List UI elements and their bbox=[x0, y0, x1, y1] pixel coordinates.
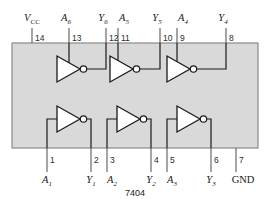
inverter-3-bubble bbox=[200, 116, 206, 122]
signal-label-a6: A6 bbox=[60, 12, 71, 26]
inverter-5-bubble bbox=[133, 66, 139, 72]
pin-number-14: 14 bbox=[35, 33, 45, 43]
pin-number-12: 12 bbox=[109, 33, 119, 43]
signal-label-y3: Y3 bbox=[206, 174, 216, 188]
signal-label-y1: Y1 bbox=[86, 174, 95, 188]
pin-number-2: 2 bbox=[94, 155, 99, 165]
inverter-4-bubble bbox=[190, 66, 196, 72]
signal-label-a3: A3 bbox=[166, 174, 177, 188]
inverter-6-bubble bbox=[80, 66, 86, 72]
pin-number-11: 11 bbox=[121, 33, 130, 43]
pin-number-6: 6 bbox=[214, 155, 219, 165]
pin-number-1: 1 bbox=[50, 155, 55, 165]
pin-number-3: 3 bbox=[110, 155, 115, 165]
inverter-1-bubble bbox=[80, 116, 86, 122]
pin-number-4: 4 bbox=[154, 155, 159, 165]
signal-label-y4: Y4 bbox=[218, 12, 228, 26]
ic-package-body bbox=[12, 43, 258, 148]
signal-label-a2: A2 bbox=[106, 174, 117, 188]
ic-pinout-diagram: 14 13 12 11 10 9 8 1 2 3 4 5 6 7 VCC A6 … bbox=[0, 0, 270, 199]
diagram-canvas: 14 13 12 11 10 9 8 1 2 3 4 5 6 7 VCC A6 … bbox=[0, 0, 270, 199]
signal-label-gnd: GND bbox=[232, 174, 255, 185]
pin-number-10: 10 bbox=[163, 33, 173, 43]
pin-number-8: 8 bbox=[229, 33, 234, 43]
signal-label-y6: Y6 bbox=[98, 12, 108, 26]
signal-label-vcc: VCC bbox=[24, 12, 40, 26]
signal-label-y5: Y5 bbox=[152, 12, 162, 26]
pin-number-5: 5 bbox=[170, 155, 175, 165]
pin-number-9: 9 bbox=[180, 33, 185, 43]
signal-label-a5: A5 bbox=[118, 12, 129, 26]
part-number-label: 7404 bbox=[125, 188, 145, 198]
bottom-pin-leads bbox=[47, 148, 236, 172]
signal-label-y2: Y2 bbox=[146, 174, 156, 188]
signal-label-a1: A1 bbox=[41, 174, 52, 188]
inverter-2-bubble bbox=[140, 116, 146, 122]
pin-number-13: 13 bbox=[72, 33, 82, 43]
signal-label-a4: A4 bbox=[177, 12, 188, 26]
pin-number-7: 7 bbox=[239, 155, 244, 165]
